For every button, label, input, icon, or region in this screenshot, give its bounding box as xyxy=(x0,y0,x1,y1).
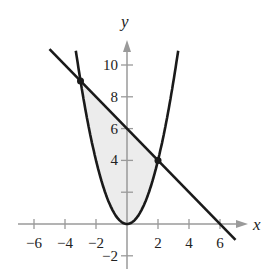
y-axis-arrow-icon xyxy=(123,40,131,52)
ticks: −6−4−2246−246810 xyxy=(26,57,224,264)
x-tick-label: −4 xyxy=(57,235,73,251)
x-tick-label: −6 xyxy=(26,235,42,251)
chart: −6−4−2246−246810 x y xyxy=(0,0,272,269)
intersection-point xyxy=(155,157,162,164)
x-axis-arrow-icon xyxy=(236,220,248,228)
x-tick-label: 4 xyxy=(185,235,193,251)
y-tick-label: 8 xyxy=(111,89,119,105)
intersection-point xyxy=(77,77,84,84)
x-axis-label: x xyxy=(252,215,261,234)
x-tick-label: 2 xyxy=(154,235,162,251)
x-tick-label: 6 xyxy=(216,235,224,251)
y-tick-label: −2 xyxy=(102,248,118,264)
line-curve xyxy=(50,49,236,240)
y-axis-label: y xyxy=(119,12,129,31)
y-tick-label: 4 xyxy=(111,152,119,168)
y-tick-label: 10 xyxy=(103,57,118,73)
y-tick-label: 6 xyxy=(111,121,119,137)
